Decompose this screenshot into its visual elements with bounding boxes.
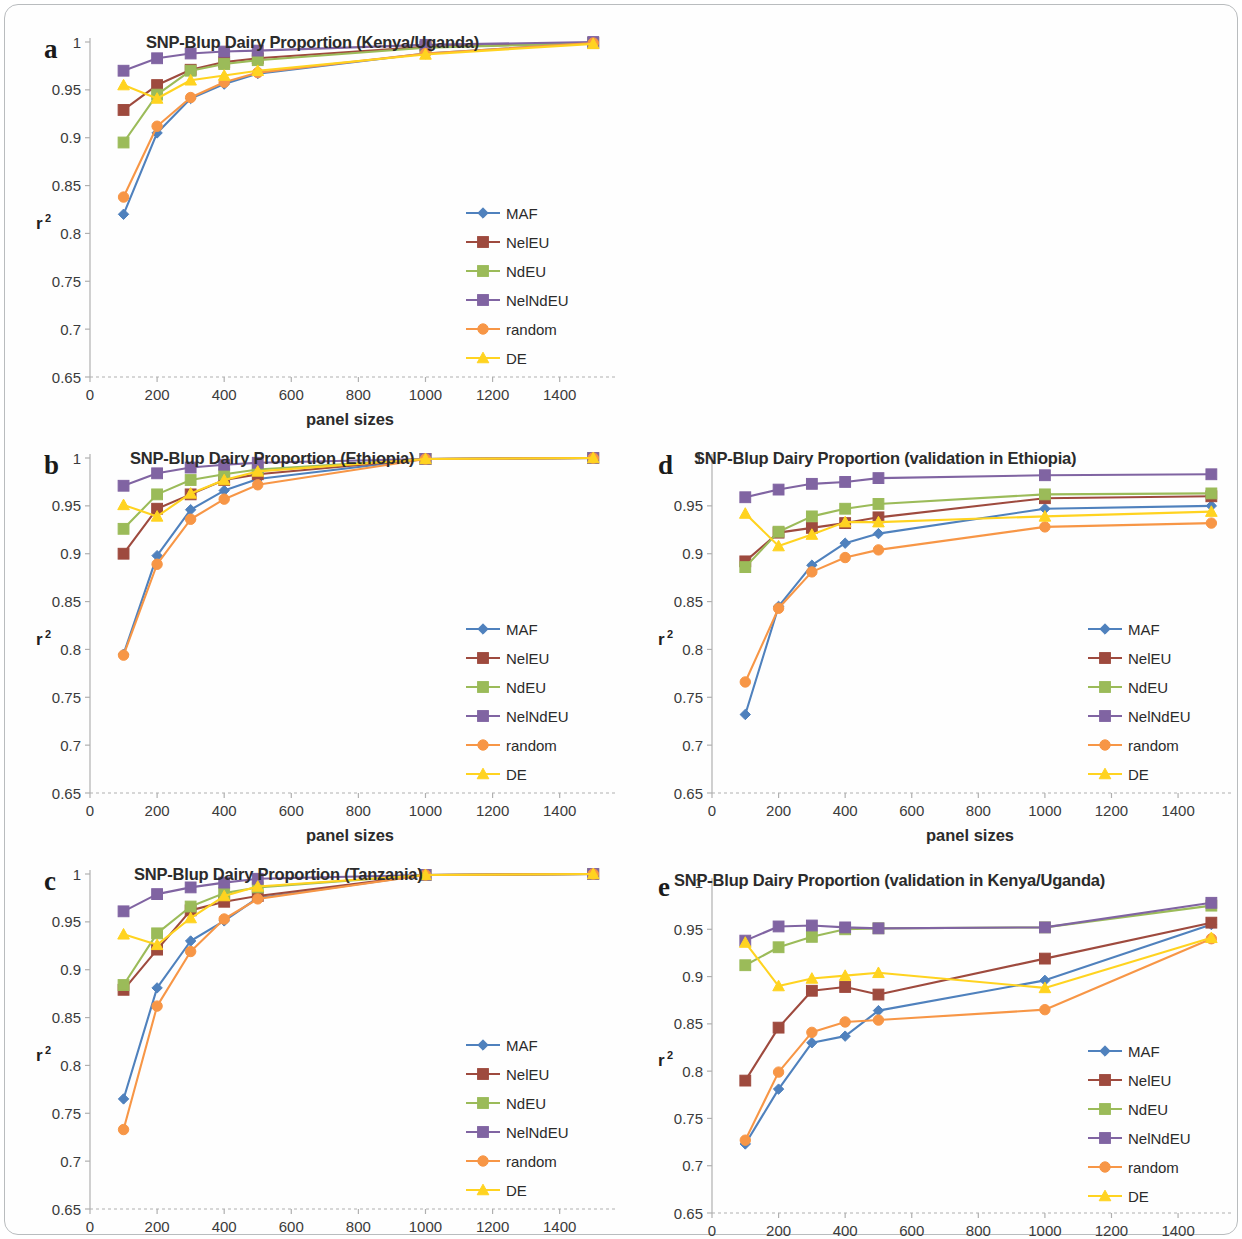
legend-item-random[interactable]: random — [466, 737, 557, 754]
legend-item-maf[interactable]: MAF — [466, 205, 538, 222]
x-tick-label: 200 — [145, 386, 170, 403]
legend-item-neleu[interactable]: NelEU — [1088, 650, 1171, 667]
legend-item-nelndeu[interactable]: NelNdEU — [1088, 708, 1191, 725]
x-tick-label: 0 — [708, 802, 716, 819]
y-tick-label: 0.65 — [52, 369, 81, 386]
legend-item-random[interactable]: random — [466, 1153, 557, 1170]
legend-marker-circle-icon — [1100, 740, 1110, 750]
data-point — [1206, 469, 1217, 480]
panel-title-c: SNP-Blup Dairy Proportion (Tanzania) — [134, 865, 423, 884]
x-tick-label: 400 — [212, 802, 237, 819]
y-tick-label: 0.7 — [60, 1153, 81, 1170]
legend-label: NelNdEU — [1128, 1130, 1191, 1147]
legend-item-neleu[interactable]: NelEU — [466, 1066, 549, 1083]
y-axis-title: r2 — [658, 628, 673, 649]
data-point — [873, 923, 884, 934]
x-tick-label: 400 — [212, 386, 237, 403]
data-point — [118, 480, 129, 491]
legend: MAFNelEUNdEUNelNdEUrandomDE — [1088, 1043, 1191, 1205]
data-point — [118, 523, 129, 534]
legend-item-neleu[interactable]: NelEU — [1088, 1072, 1171, 1089]
legend-item-nelndeu[interactable]: NelNdEU — [466, 708, 569, 725]
data-point — [118, 105, 129, 116]
x-tick-label: 1400 — [543, 386, 576, 403]
legend-item-neleu[interactable]: NelEU — [466, 234, 549, 251]
y-axis-title: r2 — [658, 1049, 673, 1070]
data-point — [773, 1022, 784, 1033]
legend-item-maf[interactable]: MAF — [466, 1037, 538, 1054]
legend-marker-square-icon — [478, 711, 489, 722]
legend-marker-circle-icon — [478, 1156, 488, 1166]
data-point — [773, 526, 784, 537]
legend-item-de[interactable]: DE — [466, 766, 527, 783]
legend-item-maf[interactable]: MAF — [466, 621, 538, 638]
svg-text:2: 2 — [667, 1049, 673, 1061]
legend-marker-square-icon — [478, 682, 489, 693]
legend-label: NelNdEU — [506, 292, 569, 309]
panel-letter-b: b — [44, 452, 59, 479]
legend-item-random[interactable]: random — [1088, 1159, 1179, 1176]
legend-item-ndeu[interactable]: NdEU — [466, 1095, 546, 1112]
legend-marker-square-icon — [1100, 1075, 1111, 1086]
svg-text:r: r — [658, 1051, 665, 1070]
data-point — [740, 1135, 750, 1145]
chart-panel-c: cSNP-Blup Dairy Proportion (Tanzania)0.6… — [18, 838, 618, 1238]
y-tick-label: 0.9 — [682, 968, 703, 985]
x-tick-label: 200 — [766, 802, 791, 819]
svg-text:r: r — [36, 214, 43, 233]
legend-item-ndeu[interactable]: NdEU — [466, 679, 546, 696]
svg-text:2: 2 — [45, 1044, 51, 1056]
data-point — [807, 567, 817, 577]
y-tick-label: 0.7 — [682, 1157, 703, 1174]
chart-panel-e: eSNP-Blup Dairy Proportion (validation i… — [636, 838, 1236, 1238]
data-point — [219, 494, 229, 504]
legend-item-ndeu[interactable]: NdEU — [1088, 1101, 1168, 1118]
legend-item-nelndeu[interactable]: NelNdEU — [466, 292, 569, 309]
legend-item-neleu[interactable]: NelEU — [466, 650, 549, 667]
legend-item-nelndeu[interactable]: NelNdEU — [1088, 1130, 1191, 1147]
legend-item-de[interactable]: DE — [466, 1182, 527, 1199]
legend-label: NelEU — [506, 650, 549, 667]
legend-item-ndeu[interactable]: NdEU — [1088, 679, 1168, 696]
data-point — [806, 931, 817, 942]
legend-label: NdEU — [506, 679, 546, 696]
x-tick-label: 1000 — [409, 386, 442, 403]
y-tick-label: 0.65 — [52, 1201, 81, 1218]
y-tick-label: 0.9 — [682, 545, 703, 562]
y-tick-label: 0.75 — [674, 1110, 703, 1127]
data-point — [118, 650, 128, 660]
y-tick-label: 0.9 — [60, 545, 81, 562]
data-point — [185, 946, 195, 956]
legend-label: NelNdEU — [1128, 708, 1191, 725]
legend-marker-square-icon — [1100, 653, 1111, 664]
legend-item-de[interactable]: DE — [466, 350, 527, 367]
legend-item-de[interactable]: DE — [1088, 1188, 1149, 1205]
data-point — [1040, 922, 1051, 933]
legend-item-maf[interactable]: MAF — [1088, 1043, 1160, 1060]
y-axis-title: r2 — [36, 212, 51, 233]
legend-item-random[interactable]: random — [466, 321, 557, 338]
legend-item-maf[interactable]: MAF — [1088, 621, 1160, 638]
data-point — [806, 985, 817, 996]
legend-item-de[interactable]: DE — [1088, 766, 1149, 783]
legend-marker-square-icon — [478, 1127, 489, 1138]
y-tick-label: 0.7 — [60, 321, 81, 338]
legend-label: NelEU — [1128, 1072, 1171, 1089]
data-point — [1206, 518, 1216, 528]
data-point — [185, 475, 196, 486]
x-tick-label: 1200 — [476, 1218, 509, 1235]
legend: MAFNelEUNdEUNelNdEUrandomDE — [466, 1037, 569, 1199]
data-point — [185, 92, 195, 102]
x-tick-label: 1000 — [1028, 1222, 1061, 1239]
chart-panel-b: bSNP-Blup Dairy Proportion (Ethiopia)0.6… — [18, 422, 618, 822]
legend-item-random[interactable]: random — [1088, 737, 1179, 754]
data-point — [740, 709, 750, 719]
y-tick-label: 0.75 — [674, 689, 703, 706]
legend-item-nelndeu[interactable]: NelNdEU — [466, 1124, 569, 1141]
legend-label: MAF — [1128, 621, 1160, 638]
x-tick-label: 400 — [833, 802, 858, 819]
legend-item-ndeu[interactable]: NdEU — [466, 263, 546, 280]
y-tick-label: 0.95 — [52, 913, 81, 930]
x-tick-label: 1400 — [543, 1218, 576, 1235]
y-tick-label: 0.95 — [674, 921, 703, 938]
